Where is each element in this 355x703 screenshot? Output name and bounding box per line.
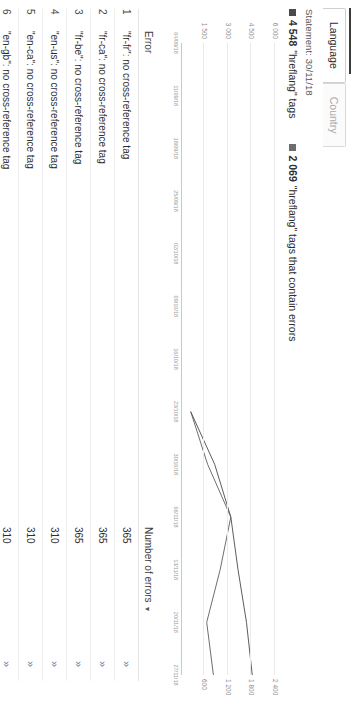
chart-series-line bbox=[191, 412, 253, 675]
row-expand-button[interactable]: » bbox=[73, 647, 84, 681]
tab-country[interactable]: Country bbox=[323, 83, 346, 148]
row-expand-button[interactable]: » bbox=[121, 647, 132, 681]
legend-value-hreflang-errors: 2 069 bbox=[287, 155, 299, 181]
rotated-screenshot-frame: Language Country Statement: 30/11/18 4 5… bbox=[0, 0, 355, 703]
chevron-double-right-icon: » bbox=[73, 661, 84, 667]
row-number-of-errors: 365 bbox=[97, 527, 108, 647]
row-number-of-errors: 310 bbox=[25, 527, 36, 647]
chart-x-tick-label: 09/10/18 bbox=[173, 296, 179, 317]
chevron-double-right-icon: » bbox=[1, 661, 12, 667]
row-number-of-errors: 310 bbox=[49, 527, 60, 647]
table-row[interactable]: 1"fr-fr": no cross-reference tag365» bbox=[114, 9, 138, 681]
row-error-description: "en-us": no cross-reference tag bbox=[49, 31, 60, 527]
row-expand-button[interactable]: » bbox=[49, 647, 60, 681]
table-row[interactable]: 4"en-us": no cross-reference tag310» bbox=[42, 9, 66, 681]
chevron-double-right-icon: » bbox=[25, 661, 36, 667]
chart-x-tick-label: 23/10/18 bbox=[173, 401, 179, 422]
chevron-double-right-icon: » bbox=[121, 661, 132, 667]
chart-legend: 4 548 "hreflang" tags 2 069 "hreflang" t… bbox=[287, 9, 299, 341]
chart-x-tick-label: 02/10/18 bbox=[173, 243, 179, 264]
row-error-description: "fr-fr": no cross-reference tag bbox=[121, 31, 132, 527]
chart-series-line bbox=[191, 412, 231, 675]
chart-y-tick-label: 6 000 bbox=[272, 23, 279, 39]
legend-item-hreflang-tags[interactable]: 4 548 "hreflang" tags bbox=[287, 9, 299, 118]
row-index: 3 bbox=[73, 9, 84, 31]
row-index: 6 bbox=[1, 9, 12, 31]
legend-label-hreflang-errors: "hreflang" tags that contain errors bbox=[287, 186, 299, 342]
legend-label-hreflang-tags: "hreflang" tags bbox=[287, 50, 299, 118]
row-index: 1 bbox=[121, 9, 132, 31]
row-number-of-errors: 310 bbox=[1, 527, 12, 647]
row-number-of-errors: 365 bbox=[73, 527, 84, 647]
statement-date: Statement: 30/11/18 bbox=[304, 9, 315, 96]
tab-bar: Language Country bbox=[323, 8, 349, 147]
chart-x-tick-label: 04/09/18 bbox=[173, 32, 179, 53]
chart-x-tick-label: 18/09/18 bbox=[173, 138, 179, 159]
row-expand-button[interactable]: » bbox=[1, 647, 12, 681]
chart-y-tick-label-secondary: 2 400 bbox=[272, 679, 279, 695]
tab-language[interactable]: Language bbox=[323, 8, 346, 83]
table-row[interactable]: 5"en-ca": no cross-reference tag310» bbox=[18, 9, 42, 681]
chart-x-tick-label: 20/11/18 bbox=[173, 612, 179, 633]
errors-table: Error Number of errors▼ 1"fr-fr": no cro… bbox=[0, 9, 159, 681]
row-index: 2 bbox=[97, 9, 108, 31]
row-index: 4 bbox=[49, 9, 60, 31]
hreflang-report-page: Language Country Statement: 30/11/18 4 5… bbox=[0, 0, 355, 703]
chart-gridline bbox=[227, 43, 228, 675]
chart-x-tick-label: 25/09/18 bbox=[173, 190, 179, 211]
table-row[interactable]: 3"fr-be": no cross-reference tag365» bbox=[66, 9, 90, 681]
column-header-number-of-errors-label: Number of errors bbox=[144, 527, 155, 603]
chart-x-tick-labels: 04/09/1811/09/1818/09/1825/09/1802/10/18… bbox=[167, 43, 181, 675]
chart-y-tick-label-secondary: 1 200 bbox=[225, 679, 232, 695]
active-tab-underline bbox=[349, 8, 351, 74]
row-expand-button[interactable]: » bbox=[25, 647, 36, 681]
row-index: 5 bbox=[25, 9, 36, 31]
sort-descending-icon: ▼ bbox=[145, 606, 152, 613]
chart-plot-area: 1 5003 0004 5006 0006001 2001 8002 400 bbox=[181, 43, 275, 675]
chart-y-tick-label: 1 500 bbox=[201, 23, 208, 39]
column-header-number-of-errors[interactable]: Number of errors▼ bbox=[144, 527, 155, 647]
table-header-row: Error Number of errors▼ bbox=[138, 9, 159, 681]
chart-x-tick-label: 27/11/18 bbox=[173, 664, 179, 685]
chart-gridline bbox=[274, 43, 275, 675]
table-row[interactable]: 2"fr-ca": no cross-reference tag365» bbox=[90, 9, 114, 681]
chart-y-tick-label-secondary: 600 bbox=[201, 679, 208, 690]
legend-value-hreflang-tags: 4 548 bbox=[287, 20, 299, 46]
chart-gridline bbox=[204, 43, 205, 675]
legend-swatch-hreflang-tags bbox=[290, 9, 297, 16]
row-error-description: "en-gb": no cross-reference tag bbox=[1, 31, 12, 527]
chart-y-tick-label: 4 500 bbox=[248, 23, 255, 39]
row-error-description: "fr-be": no cross-reference tag bbox=[73, 31, 84, 527]
chart-y-tick-label-secondary: 1 800 bbox=[248, 679, 255, 695]
tab-country-label: Country bbox=[328, 97, 340, 134]
hreflang-trend-chart: 1 5003 0004 5006 0006001 2001 8002 400 0… bbox=[165, 9, 277, 681]
chevron-double-right-icon: » bbox=[49, 661, 60, 667]
chart-series-lines bbox=[181, 43, 275, 675]
chart-x-tick-label: 13/11/18 bbox=[173, 559, 179, 580]
table-body: 1"fr-fr": no cross-reference tag365»2"fr… bbox=[0, 9, 138, 681]
chevron-double-right-icon: » bbox=[97, 661, 108, 667]
chart-gridline bbox=[251, 43, 252, 675]
row-error-description: "fr-ca": no cross-reference tag bbox=[97, 31, 108, 527]
chart-x-tick-label: 11/09/18 bbox=[173, 85, 179, 106]
chart-y-tick-label: 3 000 bbox=[225, 23, 232, 39]
chart-x-tick-label: 30/10/18 bbox=[173, 454, 179, 475]
chart-x-axis bbox=[181, 43, 182, 675]
row-error-description: "en-ca": no cross-reference tag bbox=[25, 31, 36, 527]
column-header-error[interactable]: Error bbox=[144, 31, 155, 527]
chart-x-tick-label: 16/10/18 bbox=[173, 348, 179, 369]
table-row[interactable]: 6"en-gb": no cross-reference tag310» bbox=[0, 9, 18, 681]
legend-swatch-hreflang-errors bbox=[290, 144, 297, 151]
chart-x-tick-label: 06/11/18 bbox=[173, 506, 179, 527]
row-number-of-errors: 365 bbox=[121, 527, 132, 647]
legend-item-hreflang-errors[interactable]: 2 069 "hreflang" tags that contain error… bbox=[287, 144, 299, 341]
row-expand-button[interactable]: » bbox=[97, 647, 108, 681]
tab-language-label: Language bbox=[328, 22, 340, 69]
